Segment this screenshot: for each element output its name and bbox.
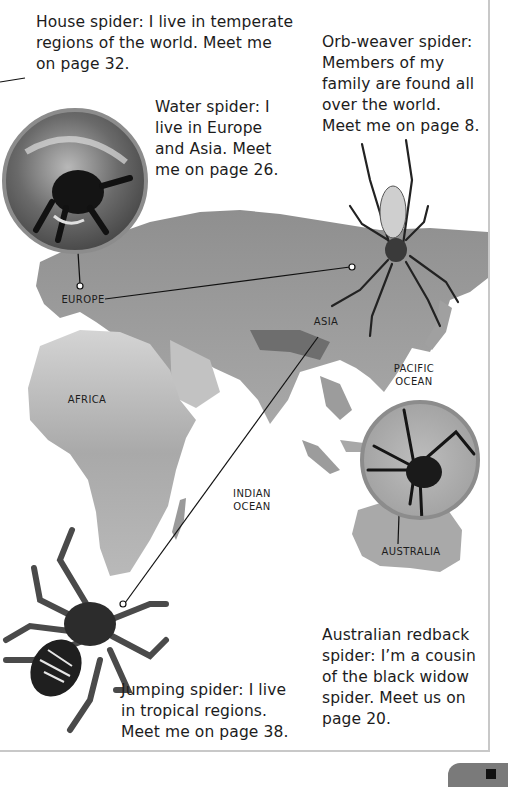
caption-line: in tropical regions. (121, 701, 301, 722)
asia-label: ASIA (308, 315, 344, 328)
europe-label: EUROPE (58, 293, 108, 306)
house-spider-caption: House spider: I live in temperate region… (36, 12, 296, 75)
caption-line: spider: I’m a cousin (322, 646, 490, 667)
redback-spider-photo (360, 400, 480, 520)
page-edge-tab (448, 763, 508, 787)
tab-marker (486, 769, 496, 779)
label-line: OCEAN (384, 375, 444, 388)
africa-label: AFRICA (62, 393, 112, 406)
label-line: INDIAN (222, 487, 282, 500)
indian-ocean-label: INDIAN OCEAN (222, 487, 282, 513)
caption-line: live in Europe (155, 118, 285, 139)
caption-line: Jumping spider: I live (121, 680, 301, 701)
label-line: PACIFIC (384, 362, 444, 375)
caption-line: me on page 26. (155, 160, 285, 181)
pacific-ocean-label: PACIFIC OCEAN (384, 362, 444, 388)
caption-line: on page 32. (36, 54, 296, 75)
water-spider-caption: Water spider: I live in Europe and Asia.… (155, 97, 285, 181)
orb-weaver-caption: Orb-weaver spider: Members of my family … (322, 32, 490, 137)
jumping-spider-caption: Jumping spider: I live in tropical regio… (121, 680, 301, 743)
australia-label: AUSTRALIA (376, 545, 446, 558)
caption-line: Australian redback (322, 625, 490, 646)
caption-line: Meet me on page 38. (121, 722, 301, 743)
caption-line: House spider: I live in temperate (36, 12, 296, 33)
caption-line: Meet me on page 8. (322, 116, 490, 137)
water-spider-photo (2, 108, 148, 254)
label-line: OCEAN (222, 500, 282, 513)
caption-line: over the world. (322, 95, 490, 116)
caption-line: spider. Meet us on (322, 688, 490, 709)
caption-line: Members of my (322, 53, 490, 74)
caption-line: family are found all (322, 74, 490, 95)
redback-caption: Australian redback spider: I’m a cousin … (322, 625, 490, 730)
caption-line: and Asia. Meet (155, 139, 285, 160)
book-page: House spider: I live in temperate region… (0, 0, 490, 752)
caption-line: Orb-weaver spider: (322, 32, 490, 53)
caption-line: of the black widow (322, 667, 490, 688)
caption-line: page 20. (322, 709, 490, 730)
caption-line: Water spider: I (155, 97, 285, 118)
caption-line: regions of the world. Meet me (36, 33, 296, 54)
